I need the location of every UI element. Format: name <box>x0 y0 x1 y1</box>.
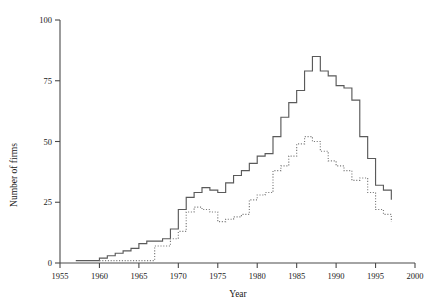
x-tick-label: 1995 <box>367 271 384 281</box>
y-axis-title: Number of firms <box>9 143 19 207</box>
y-tick-label: 75 <box>44 76 53 86</box>
x-tick-label: 1985 <box>288 271 305 281</box>
chart-container: 0255075100 Number of firms 1955196019651… <box>0 0 444 303</box>
plot-series-group <box>76 56 392 260</box>
series-dotted-path <box>99 137 391 261</box>
x-tick-label: 1975 <box>209 271 226 281</box>
x-tick-label: 1955 <box>52 271 69 281</box>
x-tick-label: 1965 <box>130 271 147 281</box>
x-axis-title: Year <box>229 289 247 299</box>
x-tick-label: 2000 <box>407 271 424 281</box>
y-axis-ticks: 0255075100 <box>39 15 60 268</box>
y-axis-group: 0255075100 Number of firms <box>9 15 60 268</box>
y-tick-label: 100 <box>39 15 52 25</box>
x-tick-label: 1970 <box>170 271 187 281</box>
x-tick-label: 1990 <box>328 271 345 281</box>
x-tick-label: 1980 <box>249 271 266 281</box>
x-axis-group: 1955196019651970197519801985199019952000… <box>52 263 424 299</box>
firms-over-time-step-chart: 0255075100 Number of firms 1955196019651… <box>0 0 444 303</box>
y-tick-label: 25 <box>44 197 53 207</box>
x-axis-ticks: 1955196019651970197519801985199019952000 <box>52 263 424 281</box>
y-tick-label: 50 <box>44 137 53 147</box>
y-tick-label: 0 <box>48 258 52 268</box>
x-tick-label: 1960 <box>91 271 108 281</box>
series-solid-path <box>76 56 392 260</box>
